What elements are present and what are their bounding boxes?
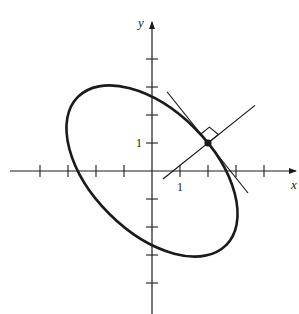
y-axis-label: y: [136, 15, 144, 30]
x-axis-label: x: [290, 177, 297, 192]
y-tick-label-1: 1: [136, 136, 142, 150]
ellipse-tangent-normal-diagram: y x 1 1: [0, 0, 299, 314]
x-tick-label-1: 1: [177, 180, 183, 194]
tangent-point: [204, 139, 211, 146]
